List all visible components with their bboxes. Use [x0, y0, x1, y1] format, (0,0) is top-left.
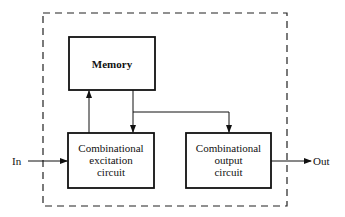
excitation-line-2: excitation [68, 154, 154, 166]
output-circuit-label: Combinational output circuit [186, 142, 271, 178]
excitation-line-3: circuit [68, 166, 154, 178]
input-label: In [12, 155, 28, 167]
memory-to-output-arrow [133, 112, 229, 132]
memory-label: Memory [69, 58, 155, 70]
excitation-label: Combinational excitation circuit [68, 142, 154, 178]
output-signal-label: Out [313, 155, 337, 167]
output-line-2: output [186, 154, 271, 166]
excitation-line-1: Combinational [68, 142, 154, 154]
output-line-1: Combinational [186, 142, 271, 154]
output-line-3: circuit [186, 166, 271, 178]
diagram-canvas [0, 0, 345, 217]
